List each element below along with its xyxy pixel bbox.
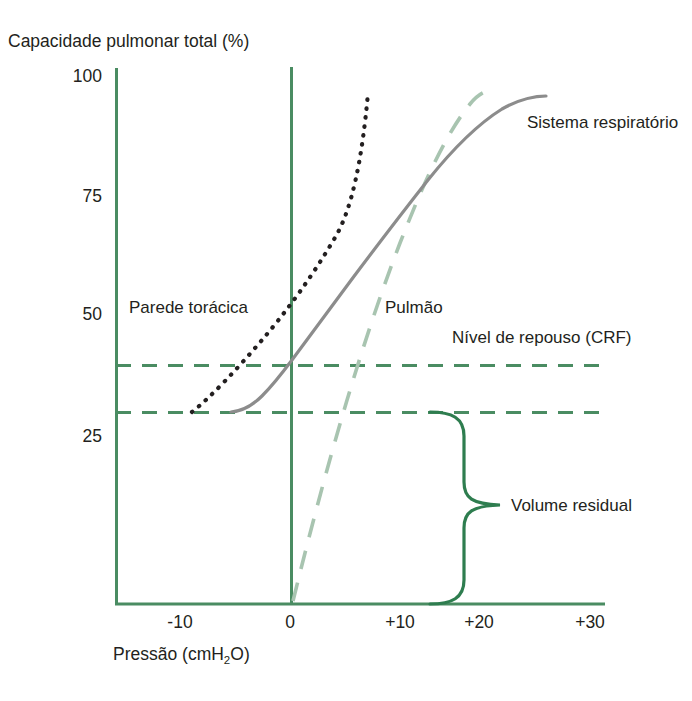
lung-compliance-chart: Capacidade pulmonar total (%) Pressão (c… [0,0,692,701]
volume-residual-brace [430,412,500,604]
chart-plot-area [0,0,692,701]
